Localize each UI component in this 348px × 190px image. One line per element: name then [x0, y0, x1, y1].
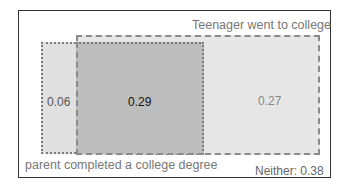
only-parent-value: 0.06 — [47, 95, 70, 109]
teenager-college-label: Teenager went to college — [192, 18, 331, 32]
neither-value: Neither: 0.38 — [255, 164, 324, 178]
both-value: 0.29 — [128, 95, 151, 109]
only-teenager-value: 0.27 — [258, 94, 281, 108]
parent-degree-label: parent completed a college degree — [25, 158, 218, 172]
